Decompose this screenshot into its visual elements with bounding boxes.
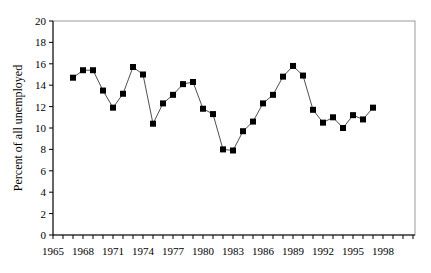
y-tick-label: 2 — [41, 208, 47, 220]
x-tick-label: 1995 — [342, 245, 365, 257]
y-tick-label: 8 — [41, 143, 47, 155]
data-point-marker — [370, 105, 376, 111]
data-point-marker — [190, 79, 196, 85]
data-point-marker — [140, 72, 146, 78]
x-tick-label: 1998 — [372, 245, 395, 257]
x-tick-label: 1986 — [252, 245, 275, 257]
y-tick-label: 0 — [41, 229, 47, 241]
data-point-marker — [120, 91, 126, 97]
data-point-marker — [130, 64, 136, 70]
y-tick-label: 20 — [35, 15, 47, 27]
series-line — [73, 66, 373, 151]
x-tick-label: 1968 — [72, 245, 95, 257]
data-point-marker — [150, 121, 156, 127]
y-tick-label: 18 — [35, 36, 47, 48]
y-tick-label: 10 — [35, 122, 47, 134]
data-point-marker — [310, 107, 316, 113]
y-tick-label: 4 — [41, 186, 47, 198]
x-tick-label: 1989 — [282, 245, 305, 257]
data-point-marker — [300, 73, 306, 79]
y-tick-label: 16 — [35, 58, 47, 70]
x-tick-label: 1971 — [102, 245, 124, 257]
data-point-marker — [340, 125, 346, 131]
x-tick-label: 1992 — [312, 245, 334, 257]
data-point-marker — [90, 67, 96, 73]
data-point-marker — [200, 106, 206, 112]
data-point-marker — [330, 114, 336, 120]
data-point-marker — [260, 100, 266, 106]
data-point-marker — [220, 146, 226, 152]
y-tick-label: 6 — [41, 165, 47, 177]
x-tick-label: 1977 — [162, 245, 185, 257]
data-point-marker — [240, 128, 246, 134]
data-point-marker — [170, 92, 176, 98]
data-point-marker — [100, 88, 106, 94]
y-tick-label: 12 — [35, 101, 46, 113]
x-tick-label: 1974 — [132, 245, 155, 257]
data-point-marker — [250, 119, 256, 125]
data-point-marker — [160, 100, 166, 106]
plot-frame — [53, 21, 415, 235]
data-point-marker — [280, 74, 286, 80]
data-series — [70, 63, 376, 154]
y-axis: 02468101214161820 — [35, 15, 53, 241]
data-point-marker — [210, 111, 216, 117]
y-axis-title: Percent of all unemployed — [11, 65, 25, 191]
data-point-marker — [290, 63, 296, 69]
y-tick-label: 14 — [35, 79, 47, 91]
x-axis: 1965196819711974197719801983198619891992… — [42, 235, 413, 257]
data-point-marker — [360, 116, 366, 122]
data-point-marker — [80, 67, 86, 73]
plot-border — [53, 21, 415, 235]
data-point-marker — [270, 92, 276, 98]
data-point-marker — [230, 147, 236, 153]
data-point-marker — [180, 81, 186, 87]
x-tick-label: 1980 — [192, 245, 215, 257]
data-point-marker — [110, 105, 116, 111]
line-chart: 02468101214161820 1965196819711974197719… — [0, 0, 431, 273]
data-point-marker — [350, 112, 356, 118]
data-point-marker — [70, 75, 76, 81]
x-tick-label: 1965 — [42, 245, 65, 257]
x-tick-label: 1983 — [222, 245, 245, 257]
data-point-marker — [320, 120, 326, 126]
